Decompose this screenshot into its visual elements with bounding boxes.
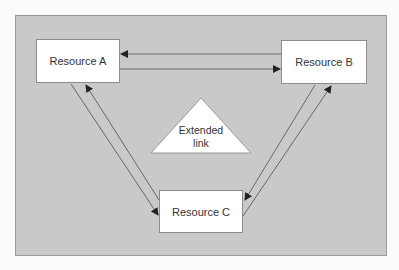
node-resource-b: Resource B xyxy=(281,40,367,84)
arrow-c-to-b xyxy=(243,86,331,216)
extended-link-label: Extended link xyxy=(160,124,242,150)
arrow-b-to-c xyxy=(245,85,315,200)
node-resource-c: Resource C xyxy=(159,190,243,233)
extended-link-label-line1: Extended xyxy=(160,124,242,137)
node-label: Resource B xyxy=(295,56,352,68)
arrow-a-to-c xyxy=(71,84,158,215)
arrow-c-to-a xyxy=(86,85,159,200)
node-label: Resource C xyxy=(172,206,230,218)
diagram-canvas: Resource A Resource B Resource C Extende… xyxy=(0,0,399,270)
node-resource-a: Resource A xyxy=(36,39,120,83)
node-label: Resource A xyxy=(50,55,107,67)
extended-link-label-line2: link xyxy=(160,137,242,150)
